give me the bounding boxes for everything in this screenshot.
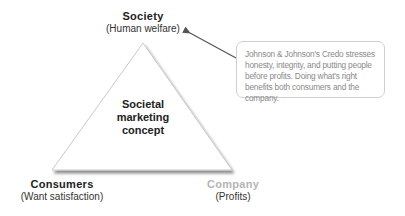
callout-box: Johnson & Johnson's Credo stresses hones…: [236, 41, 385, 98]
consumers-title: Consumers: [12, 179, 112, 190]
vertex-consumers: Consumers (Want satisfaction): [12, 179, 112, 202]
center-line-1: Societal: [93, 98, 193, 111]
society-title: Society: [93, 11, 193, 22]
societal-marketing-diagram: Society (Human welfare) Societal marketi…: [0, 0, 405, 216]
society-subtitle: (Human welfare): [93, 24, 193, 34]
center-line-2: marketing: [93, 111, 193, 124]
company-title: Company: [183, 179, 283, 190]
triangle-center-label: Societal marketing concept: [93, 98, 193, 137]
center-line-3: concept: [93, 124, 193, 137]
vertex-company: Company (Profits): [183, 179, 283, 202]
callout-arrow: [190, 33, 236, 58]
company-subtitle: (Profits): [183, 192, 283, 202]
callout-text: Johnson & Johnson's Credo stresses hones…: [245, 49, 375, 103]
vertex-society: Society (Human welfare): [93, 11, 193, 34]
consumers-subtitle: (Want satisfaction): [12, 192, 112, 202]
